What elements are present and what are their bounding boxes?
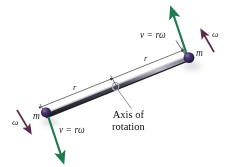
axis-of-rotation-line1: Axis of <box>112 109 145 121</box>
mass-sphere-bottom <box>41 107 51 117</box>
axis-of-rotation-line2: rotation <box>112 121 145 133</box>
omega-label-top: ω <box>212 30 218 39</box>
radius-label-right: r <box>144 54 147 63</box>
physics-diagram-rotating-rod: v = rω m ω r r ω m v = rω Axis of rotati… <box>0 0 230 167</box>
mass-label-top: m <box>196 49 203 59</box>
velocity-label-bottom: v = rω <box>59 126 85 136</box>
mass-sphere-top <box>184 52 195 63</box>
omega-label-bottom: ω <box>12 118 18 127</box>
radius-label-left: r <box>73 83 76 92</box>
velocity-label-top: v = rω <box>140 31 166 41</box>
omega-vector-bottom <box>17 110 29 130</box>
axis-of-rotation-label: Axis of rotation <box>112 109 145 133</box>
axis-leader-line <box>118 90 132 109</box>
diagram-canvas <box>0 0 230 167</box>
mass-label-bottom: m <box>33 112 40 122</box>
